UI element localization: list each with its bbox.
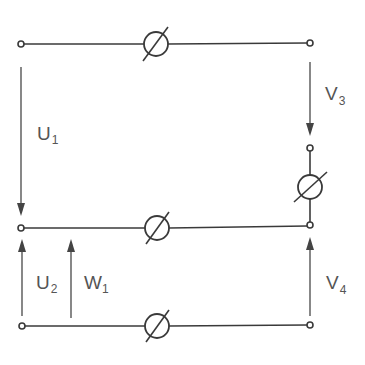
- circuit-diagram: U1 U2 W1 V3 V4: [0, 0, 365, 365]
- terminal-middle-right: [307, 222, 313, 228]
- u2-label: U2: [36, 272, 58, 296]
- terminal-bottom-right: [307, 322, 313, 328]
- u2-arrow-icon: [18, 239, 26, 316]
- w1-label: W1: [84, 272, 109, 296]
- v3-label: V3: [325, 83, 346, 108]
- terminal-top-left: [18, 41, 24, 47]
- u1-label: U1: [37, 123, 59, 147]
- top-meter-icon: [143, 27, 168, 61]
- terminal-bottom-left: [19, 323, 25, 329]
- w1-arrow-icon: [67, 239, 75, 318]
- v3-arrow-icon: [306, 62, 314, 136]
- terminal-right-mid-upper: [307, 145, 313, 151]
- terminal-middle-left: [18, 225, 24, 231]
- right-meter-icon: [294, 172, 327, 202]
- v4-arrow-icon: [306, 237, 314, 316]
- bottom-meter-icon: [145, 310, 169, 342]
- u1-arrow-icon: [17, 67, 25, 216]
- v4-label: V4: [326, 272, 347, 297]
- terminal-top-right: [307, 40, 313, 46]
- middle-meter-icon: [145, 212, 169, 244]
